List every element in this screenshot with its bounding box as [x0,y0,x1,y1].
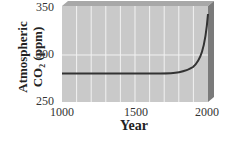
plot-side-face [208,1,214,102]
chart-plot [0,0,229,142]
y-tick-350: 350 [36,0,54,15]
x-axis-label: Year [120,118,148,134]
x-tick-2000: 2000 [195,105,219,120]
plot-top-face [62,1,214,6]
x-tick-1000: 1000 [50,105,74,120]
y-tick-300: 300 [36,47,54,62]
